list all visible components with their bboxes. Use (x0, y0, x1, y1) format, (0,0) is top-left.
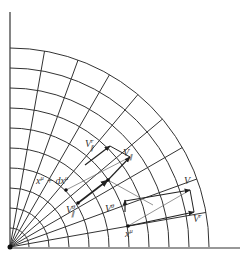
label-x-mu-plus-dx: xμ + dxμ (36, 175, 68, 186)
label-v-theta: Vθ (105, 203, 114, 214)
polar-grid-diagram (0, 0, 248, 257)
label-v-par: V∥ (123, 148, 132, 161)
x-mu-plus-dx-point (64, 188, 68, 192)
label-v: V (184, 176, 190, 186)
origin-dot (8, 245, 13, 250)
v-r-component (128, 212, 194, 226)
label-v-par-r: Vr∥ (85, 138, 93, 152)
label-v-r: Vr (193, 213, 202, 224)
label-x-mu: xμ (125, 228, 133, 239)
vector-at-x (125, 190, 194, 228)
v-tip-drop (190, 190, 194, 212)
label-v-par-theta: Vθ∥ (66, 204, 74, 218)
vpar-thin-diag (108, 180, 153, 205)
